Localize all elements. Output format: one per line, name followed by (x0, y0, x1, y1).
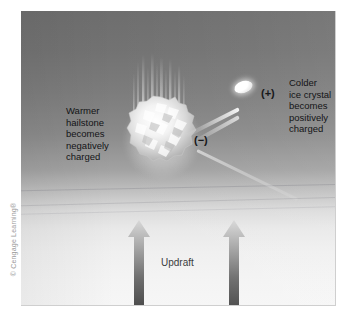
horizon-line-3 (21, 206, 336, 215)
positive-charge-label: (+) (261, 87, 275, 99)
updraft-label: Updraft (161, 257, 194, 268)
hailstone (117, 53, 207, 183)
negative-charge-label: (−) (194, 134, 208, 146)
hailstone-caption: Warmer hailstone becomes negatively char… (66, 105, 128, 163)
horizon-line-1 (21, 184, 336, 192)
horizon-line-2 (21, 197, 336, 207)
illustration-panel: (−) (+) Warmer hailstone becomes negativ… (21, 11, 336, 306)
collision-ray (196, 149, 298, 201)
hailstone-ice-streaks (117, 53, 207, 183)
ice-crystal (233, 78, 255, 95)
updraft-arrow-right (222, 220, 246, 306)
copyright-credit: © Cengage Learning® (10, 201, 17, 279)
figure-container: (−) (+) Warmer hailstone becomes negativ… (0, 0, 344, 313)
updraft-arrow-left (127, 220, 151, 306)
ice-crystal-caption: Colder ice crystal becomes positively ch… (289, 77, 336, 135)
